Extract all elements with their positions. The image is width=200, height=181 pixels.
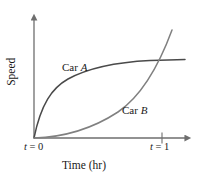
tick-label-t-one-var: t	[150, 141, 153, 152]
curve-a-label-text: Car	[62, 61, 81, 73]
speed-time-graph-figure: Speed Time (hr) Car A Car B t = 0 t = 1	[0, 0, 200, 181]
curve-car-b	[34, 30, 172, 138]
tick-label-t-one: t = 1	[150, 142, 169, 153]
curve-b-label: Car B	[122, 105, 147, 116]
y-axis-label: Speed	[6, 48, 18, 96]
plot-area	[0, 0, 200, 181]
tick-label-t-zero-var: t	[24, 141, 27, 152]
curve-car-a	[34, 60, 185, 139]
tick-label-t-one-value: = 1	[156, 141, 170, 152]
curve-a-label-letter: A	[81, 61, 88, 73]
x-axis-label: Time (hr)	[62, 160, 106, 172]
curve-b-label-text: Car	[122, 104, 141, 116]
curve-b-label-letter: B	[141, 104, 148, 116]
tick-label-t-zero: t = 0	[24, 142, 43, 153]
tick-label-t-zero-value: = 0	[30, 141, 44, 152]
curve-a-label: Car A	[62, 62, 87, 73]
